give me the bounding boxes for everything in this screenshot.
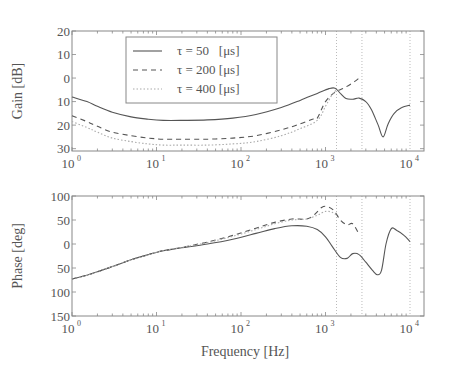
y-tick-label: 100 bbox=[51, 285, 71, 300]
y-tick-label: 10 bbox=[57, 94, 70, 109]
y-tick-label: 50 bbox=[57, 213, 70, 228]
x-tick-exponent: 4 bbox=[415, 319, 419, 328]
x-tick-label: 10 bbox=[62, 156, 75, 171]
x-tick-exponent: 3 bbox=[331, 154, 335, 163]
legend: τ = 50 [μs]τ = 200 [μs]τ = 400 [μs] bbox=[126, 37, 277, 103]
y-tick-label: 30 bbox=[57, 141, 70, 156]
x-tick-label: 10 bbox=[400, 321, 413, 336]
x-tick-exponent: 0 bbox=[77, 319, 81, 328]
y-tick-label: 0 bbox=[64, 237, 71, 252]
x-tick-exponent: 4 bbox=[415, 154, 419, 163]
y-tick-label: 20 bbox=[57, 118, 70, 133]
x-tick-label: 10 bbox=[315, 156, 328, 171]
series-line-dotted bbox=[72, 211, 337, 279]
x-tick-exponent: 1 bbox=[162, 319, 166, 328]
x-tick-exponent: 2 bbox=[246, 154, 250, 163]
x-tick-label: 10 bbox=[315, 321, 328, 336]
legend-label: τ = 200 [μs] bbox=[177, 62, 240, 77]
x-tick-label: 10 bbox=[231, 321, 244, 336]
x-tick-label: 10 bbox=[231, 156, 244, 171]
y-tick-label: 0 bbox=[64, 71, 71, 86]
y-tick-label: 50 bbox=[57, 261, 70, 276]
axes-frame bbox=[72, 196, 424, 316]
y-tick-label: 10 bbox=[57, 47, 70, 62]
x-tick-exponent: 0 bbox=[77, 154, 81, 163]
frequency-axis-label: Frequency [Hz] bbox=[201, 344, 289, 359]
x-tick-label: 10 bbox=[146, 156, 159, 171]
bode-figure: 10010110210310420100102030τ = 50 [μs]τ =… bbox=[0, 0, 454, 372]
gain-plot: 10010110210310420100102030τ = 50 [μs]τ =… bbox=[57, 24, 424, 172]
gain-axis-label: Gain [dB] bbox=[10, 63, 25, 119]
legend-label: τ = 50 [μs] bbox=[177, 43, 240, 58]
y-tick-label: 20 bbox=[57, 24, 70, 39]
x-tick-exponent: 3 bbox=[331, 319, 335, 328]
x-tick-label: 10 bbox=[146, 321, 159, 336]
phase-plot: 10010110210310410050050100150 bbox=[51, 189, 425, 337]
phase-axis-label: Phase [deg] bbox=[10, 223, 25, 289]
y-tick-label: 100 bbox=[51, 189, 71, 204]
x-tick-exponent: 2 bbox=[246, 319, 250, 328]
x-tick-exponent: 1 bbox=[162, 154, 166, 163]
legend-label: τ = 400 [μs] bbox=[177, 81, 240, 96]
x-tick-label: 10 bbox=[400, 156, 413, 171]
y-tick-label: 150 bbox=[51, 309, 71, 324]
